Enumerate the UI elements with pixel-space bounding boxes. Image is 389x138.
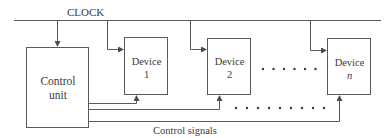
control-unit-label: Control unit <box>27 74 89 103</box>
clock-to-device-1 <box>108 21 124 50</box>
clock-to-device-2 <box>191 21 207 50</box>
device-1-index: 1 <box>125 68 168 81</box>
control-signals-label: Control signals <box>153 126 217 137</box>
control-unit-line1: Control <box>27 74 89 88</box>
clock-label: CLOCK <box>67 7 104 18</box>
control-unit-line2: unit <box>27 88 89 102</box>
bus-timing-diagram: CLOCK Control unit Device 1 Device 2 Dev… <box>0 0 389 138</box>
control-signal-device-2 <box>89 96 220 110</box>
device-n-index: n <box>328 69 371 82</box>
clock-to-device-n <box>311 21 327 51</box>
control-signal-device-1 <box>89 96 137 104</box>
device-n-label: Device n <box>328 56 371 82</box>
device-n-name: Device <box>328 56 371 69</box>
device-2-label: Device 2 <box>208 55 251 81</box>
device-1-name: Device <box>125 55 168 68</box>
device-2-name: Device <box>208 55 251 68</box>
device-1-label: Device 1 <box>125 55 168 81</box>
device-2-index: 2 <box>208 68 251 81</box>
